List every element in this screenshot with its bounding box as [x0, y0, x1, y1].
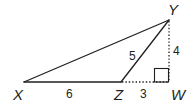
segment-xy	[24, 20, 169, 82]
length-label-yw: 4	[173, 44, 180, 58]
right-angle-marker	[155, 69, 169, 83]
triangle-diagram: Y X Z W 6 3 5 4	[0, 0, 195, 109]
vertex-label-x: X	[12, 86, 24, 103]
length-label-zw: 3	[140, 87, 147, 101]
length-label-zy: 5	[129, 49, 136, 63]
vertex-label-w: W	[171, 86, 187, 103]
vertex-label-z: Z	[113, 86, 124, 103]
length-label-xz: 6	[66, 87, 73, 101]
vertex-label-y: Y	[168, 1, 179, 18]
